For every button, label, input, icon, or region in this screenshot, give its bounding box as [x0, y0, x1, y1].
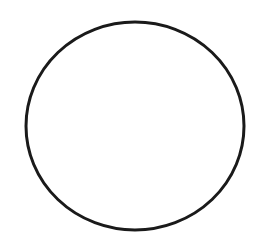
diagram-canvas	[0, 0, 259, 250]
diagram-svg	[0, 0, 259, 250]
circle-outline	[26, 22, 244, 230]
